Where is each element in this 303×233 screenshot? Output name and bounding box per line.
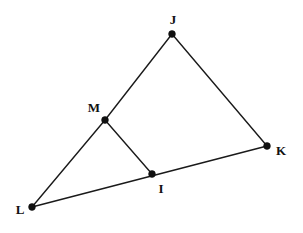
vertex-label-j: J [170,13,177,26]
segment-jm [105,34,172,120]
vertex-label-i: I [158,182,163,195]
vertex-point-i [149,171,156,178]
geometry-figure: JKLMI [0,0,303,233]
geometry-canvas [0,0,303,233]
vertex-point-j [169,31,176,38]
vertex-point-m [102,117,109,124]
vertex-label-l: L [16,203,25,216]
points-group [29,31,271,211]
segment-jk [172,34,267,146]
segments-group [32,34,267,207]
segment-mi [105,120,152,174]
vertex-point-l [29,204,36,211]
vertex-label-m: M [88,101,100,114]
vertex-label-k: K [276,144,286,157]
segment-ml [32,120,105,207]
vertex-point-k [264,143,271,150]
